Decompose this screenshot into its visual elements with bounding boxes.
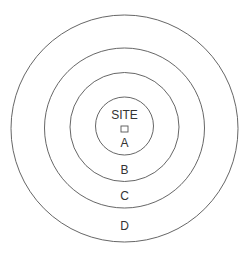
zone-a-label: A [120,136,128,150]
zone-d-label: D [120,219,129,233]
site-label: SITE [111,108,138,122]
site-marker-icon [121,126,128,132]
zone-c-label: C [120,189,129,203]
zone-b-label: B [120,163,128,177]
concentric-zone-diagram: SITE A B C D [0,0,240,258]
